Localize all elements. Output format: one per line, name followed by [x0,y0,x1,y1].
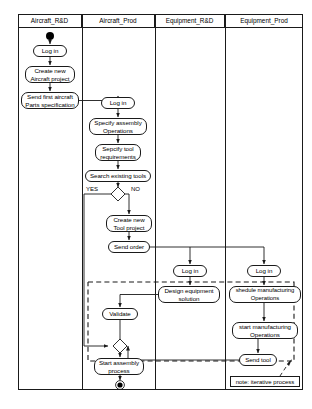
node-login-equipment-rd[interactable]: Log in [173,265,207,277]
node-specify-tool-requirements[interactable]: Sepcify tool requirements [95,144,141,161]
node-start-manufacturing-operations[interactable]: start manufacturing Operations [232,322,298,339]
initial-node-shape [46,32,54,40]
node-login-equipment-prod[interactable]: Log in [247,265,281,277]
diagram-canvas: Aircraft_R&D Aircraft_Prod Equipment_R&D… [0,0,312,409]
edge-label-yes: YES [86,186,98,192]
node-login-aircraft-prod[interactable]: Log in [101,97,135,109]
note-iterative-process: note: iterative process [230,376,300,387]
node-design-equipment-solution[interactable]: Design equipment solution [158,286,220,303]
node-schedule-manufacturing-operations[interactable]: shedule manufacturing Operations [229,286,301,303]
node-send-tool[interactable]: Send tool [239,354,277,366]
final-node-shape [116,381,125,390]
edge-label-no: NO [131,186,140,192]
node-create-tool-project[interactable]: Create new Tool project [106,215,152,232]
node-create-aircraft-project[interactable]: Create new Aircraft project [25,66,75,83]
decision-diamond-shape [111,187,125,201]
node-send-order[interactable]: Send order [108,241,150,253]
node-validate[interactable]: Validate [102,308,138,320]
node-specify-assembly-operations[interactable]: Specify assembly Operations [89,118,147,135]
node-start-assembly-process[interactable]: Start assembly process [94,358,144,375]
activity-diagram: Aircraft_R&D Aircraft_Prod Equipment_R&D… [18,14,303,390]
node-search-existing-tools[interactable]: Search existing tools [85,170,151,182]
node-login-aircraft-rd[interactable]: Log in [33,45,67,57]
node-send-parts-specification[interactable]: Send first aircraft Parts specification [21,92,79,109]
merge-diamond-shape [113,339,127,353]
